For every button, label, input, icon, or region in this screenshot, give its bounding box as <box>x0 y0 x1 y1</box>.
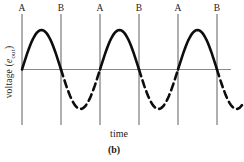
dashed-halfcycle-path <box>61 70 242 110</box>
y-axis-label-text: voltage ( <box>4 63 14 98</box>
marker-label: A <box>19 3 26 13</box>
y-axis-label: voltage (eout) <box>4 46 14 99</box>
marker-label: B <box>214 3 220 13</box>
y-axis-label-suffix: ) <box>4 46 14 49</box>
marker-label: A <box>175 3 182 13</box>
marker-label: B <box>58 3 64 13</box>
y-axis-subscript: out <box>9 49 17 59</box>
x-axis-label: time <box>110 128 128 139</box>
marker-label: A <box>97 3 104 13</box>
y-axis-symbol: e <box>4 59 14 63</box>
figure: ABABAB voltage (eout) time (b) <box>0 0 244 162</box>
solid-halfcycle-path <box>22 30 217 70</box>
marker-label: B <box>136 3 142 13</box>
figure-caption: (b) <box>108 144 120 155</box>
